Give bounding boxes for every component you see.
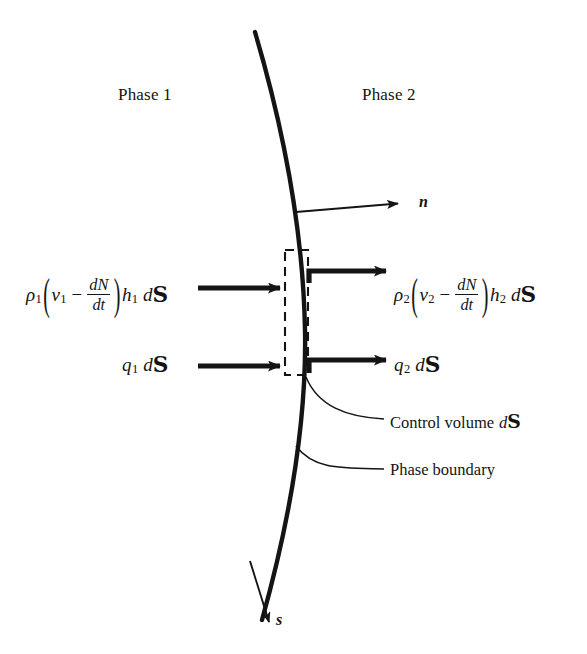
dN-dt-fraction: dN dt	[455, 276, 478, 313]
rho-subscript: 1	[36, 293, 42, 306]
fraction-numerator: dN	[455, 276, 478, 294]
velocity-symbol: v	[419, 285, 427, 304]
fraction-denominator: dt	[90, 295, 107, 313]
heat-flux-out-expression: q2 dS	[394, 354, 440, 376]
rho-symbol: ρ	[394, 285, 403, 304]
differential-d: d	[511, 285, 521, 304]
enthalpy-subscript: 1	[132, 293, 138, 306]
phase-boundary-figure: Phase 1 Phase 2 n s ρ1 ( v1 − dN dt ) h1…	[0, 0, 587, 654]
heat-flux-in-expression: q1 dS	[122, 354, 168, 376]
heat-flux-subscript: 2	[404, 363, 410, 376]
surface-element-symbol: S	[507, 410, 521, 432]
diagram-canvas	[0, 0, 587, 654]
velocity-subscript: 1	[60, 293, 66, 306]
control-volume-leader-line	[306, 377, 384, 419]
rho-symbol: ρ	[26, 285, 35, 304]
phase-1-label: Phase 1	[118, 86, 172, 103]
surface-element-symbol: S	[153, 354, 169, 376]
minus-sign: −	[72, 285, 83, 304]
differential-d: d	[415, 355, 425, 374]
enthalpy-flux-out-arrow	[309, 271, 386, 283]
surface-element-symbol: S	[153, 284, 169, 306]
heat-flux-symbol: q	[122, 355, 132, 374]
phase-boundary-callout-label: Phase boundary	[390, 462, 495, 479]
paren-open: (	[411, 272, 418, 317]
heat-flux-out-arrow	[309, 360, 386, 373]
minus-sign: −	[440, 285, 451, 304]
surface-element-symbol: S	[425, 354, 441, 376]
differential-d: d	[143, 285, 153, 304]
paren-close: )	[482, 272, 489, 317]
dN-dt-fraction: dN dt	[87, 276, 110, 313]
surface-element-symbol: S	[521, 284, 537, 306]
heat-flux-symbol: q	[394, 355, 404, 374]
control-volume-callout-label: Control volumedS	[390, 412, 521, 432]
differential-d: d	[143, 355, 153, 374]
rho-subscript: 2	[404, 293, 410, 306]
velocity-subscript: 2	[428, 293, 434, 306]
normal-vector-arrow	[296, 204, 398, 213]
fraction-denominator: dt	[458, 295, 475, 313]
heat-flux-subscript: 1	[132, 363, 138, 376]
phase-boundary-leader-line	[296, 446, 384, 469]
tangent-vector-arrow	[250, 561, 269, 622]
enthalpy-flux-in-expression: ρ1 ( v1 − dN dt ) h1 dS	[26, 276, 168, 313]
paren-close: )	[114, 272, 121, 317]
tangent-vector-label: s	[276, 612, 282, 628]
velocity-symbol: v	[51, 285, 59, 304]
fraction-numerator: dN	[87, 276, 110, 294]
enthalpy-symbol: h	[490, 285, 500, 304]
paren-open: (	[43, 272, 50, 317]
normal-vector-label: n	[419, 194, 428, 210]
phase-2-label: Phase 2	[362, 86, 416, 103]
enthalpy-flux-out-expression: ρ2 ( v2 − dN dt ) h2 dS	[394, 276, 536, 313]
enthalpy-symbol: h	[122, 285, 132, 304]
enthalpy-subscript: 2	[500, 293, 506, 306]
control-volume-callout-text: Control volume	[390, 413, 494, 432]
phase-boundary-curve	[255, 32, 305, 620]
